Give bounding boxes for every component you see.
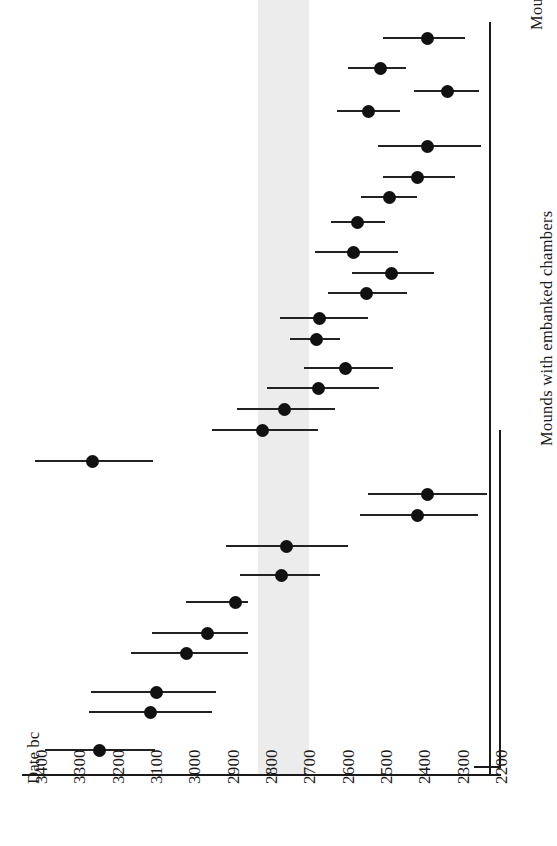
date-point-marker	[256, 424, 269, 437]
date-point-marker	[280, 540, 293, 553]
date-point-marker	[201, 627, 214, 640]
date-point-marker	[93, 744, 106, 757]
x-tick-label-3100: 3100	[147, 722, 167, 784]
date-point-marker	[229, 596, 242, 609]
date-point-marker	[351, 216, 364, 229]
x-tick-label-3300: 3300	[70, 722, 90, 784]
date-point-marker	[421, 140, 434, 153]
chart-root: Date bc 34003300320031003000290028002700…	[0, 0, 557, 846]
x-tick-label-3000: 3000	[185, 722, 205, 784]
x-tick-label-2800: 2800	[262, 722, 282, 784]
date-point-marker	[144, 706, 157, 719]
right-axis-line-lower	[499, 430, 501, 768]
x-tick-label-2700: 2700	[300, 722, 320, 784]
date-point-marker	[411, 509, 424, 522]
x-tick-label-2500: 2500	[377, 722, 397, 784]
x-tick-label-2900: 2900	[224, 722, 244, 784]
right-axis-line-upper	[489, 22, 491, 776]
date-point-marker	[362, 105, 375, 118]
date-point-marker	[360, 287, 373, 300]
date-point-marker	[339, 362, 352, 375]
x-tick-label-3400: 3400	[32, 722, 52, 784]
group-label-with-embanked-chambers: Mounds with embanked chambers	[537, 210, 557, 446]
date-point-marker	[150, 686, 163, 699]
date-point-marker	[383, 191, 396, 204]
date-point-marker	[275, 569, 288, 582]
date-point-marker	[180, 647, 193, 660]
date-point-marker	[441, 85, 454, 98]
x-tick-label-2200: 2200	[492, 722, 512, 784]
x-tick-label-2400: 2400	[415, 722, 435, 784]
date-point-marker	[421, 32, 434, 45]
date-point-marker	[278, 403, 291, 416]
date-range-bar	[152, 632, 248, 634]
date-point-marker	[347, 246, 360, 259]
x-tick-label-3200: 3200	[109, 722, 129, 784]
date-point-marker	[310, 333, 323, 346]
x-tick-label-2300: 2300	[454, 722, 474, 784]
x-tick-label-2600: 2600	[339, 722, 359, 784]
date-point-marker	[86, 455, 99, 468]
group-label-without-embanked-chambers: Mounds without embanked chambers	[527, 0, 547, 30]
date-point-marker	[313, 312, 326, 325]
date-point-marker	[374, 62, 387, 75]
date-point-marker	[312, 382, 325, 395]
plot-area	[0, 0, 557, 780]
date-point-marker	[385, 267, 398, 280]
date-point-marker	[411, 171, 424, 184]
date-point-marker	[421, 488, 434, 501]
